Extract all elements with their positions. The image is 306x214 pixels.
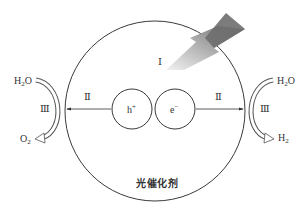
photocatalysis-diagram: Ⅰ Ⅱ Ⅱ Ⅲ Ⅲ h+ e− H2O O2 H2O H2 光催化剂 — [0, 0, 306, 214]
right-product-hydrogen: H2 — [278, 133, 289, 145]
stage-3-left-label: Ⅲ — [40, 104, 50, 114]
stage-2-right-label: Ⅱ — [215, 92, 222, 102]
right-reactant-water: H2O — [277, 76, 295, 88]
lightning-bolt-icon — [166, 13, 245, 70]
catalyst-label: 光催化剂 — [136, 175, 178, 190]
left-reactant-water: H2O — [14, 76, 32, 88]
stage-1-label: Ⅰ — [158, 57, 162, 67]
electron-label: e− — [170, 104, 178, 115]
stage-3-right-label: Ⅲ — [260, 104, 270, 114]
left-product-oxygen: O2 — [20, 134, 31, 146]
hole-label: h+ — [127, 104, 136, 115]
stage-2-left-label: Ⅱ — [84, 92, 91, 102]
